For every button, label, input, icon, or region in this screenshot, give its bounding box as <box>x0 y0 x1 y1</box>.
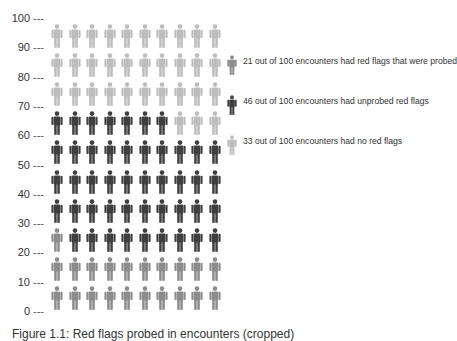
y-tick-value: 100 <box>12 12 30 24</box>
y-tick-label: 10--- <box>0 276 44 288</box>
person-icon <box>69 24 81 48</box>
person-icon <box>86 140 98 164</box>
person-icon <box>156 53 168 77</box>
person-icon <box>121 24 133 48</box>
person-icon <box>86 53 98 77</box>
y-tick-value: 50 <box>18 159 30 171</box>
person-icon <box>174 286 186 310</box>
figure-caption: Figure 1.1: Red flags probed in encounte… <box>12 327 294 341</box>
person-icon <box>174 257 186 281</box>
y-tick-label: 80--- <box>0 71 44 83</box>
person-icon <box>139 82 151 106</box>
person-icon <box>174 199 186 223</box>
person-icon <box>139 199 151 223</box>
person-icon <box>174 228 186 252</box>
person-icon <box>139 228 151 252</box>
person-icon <box>156 257 168 281</box>
person-icon <box>51 199 63 223</box>
y-tick-dash: --- <box>33 41 44 53</box>
y-tick-dash: --- <box>33 188 44 200</box>
person-icon <box>209 199 221 223</box>
y-tick-value: 40 <box>18 188 30 200</box>
y-tick-value: 10 <box>18 276 30 288</box>
person-icon <box>174 53 186 77</box>
person-icon <box>174 140 186 164</box>
person-icon <box>174 111 186 135</box>
person-icon <box>139 257 151 281</box>
person-icon <box>139 111 151 135</box>
person-icon <box>86 199 98 223</box>
person-icon <box>69 170 81 194</box>
person-icon <box>51 170 63 194</box>
person-icon <box>174 24 186 48</box>
person-icon <box>209 257 221 281</box>
person-icon <box>104 140 116 164</box>
person-icon <box>121 257 133 281</box>
y-tick-dash: --- <box>33 71 44 83</box>
person-icon <box>51 140 63 164</box>
person-icon <box>86 170 98 194</box>
person-icon <box>51 24 63 48</box>
y-tick-value: 60 <box>18 129 30 141</box>
person-icon <box>139 53 151 77</box>
person-icon <box>209 111 221 135</box>
person-icon <box>191 199 203 223</box>
person-icon <box>191 140 203 164</box>
y-tick-label: 40--- <box>0 188 44 200</box>
person-icon <box>209 24 221 48</box>
person-icon <box>191 257 203 281</box>
person-icon <box>69 286 81 310</box>
person-icon <box>139 24 151 48</box>
person-icon <box>69 53 81 77</box>
person-icon <box>209 140 221 164</box>
person-icon <box>156 286 168 310</box>
person-icon <box>121 170 133 194</box>
y-tick-dash: --- <box>33 217 44 229</box>
y-tick-value: 70 <box>18 100 30 112</box>
legend-label: 33 out of 100 encounters had no red flag… <box>243 136 402 146</box>
person-icon <box>139 140 151 164</box>
person-icon <box>104 170 116 194</box>
person-icon <box>191 111 203 135</box>
person-icon <box>191 286 203 310</box>
y-tick-label: 0--- <box>0 305 44 317</box>
person-icon <box>104 82 116 106</box>
person-icon <box>51 82 63 106</box>
y-tick-label: 30--- <box>0 217 44 229</box>
person-icon <box>86 82 98 106</box>
person-icon <box>69 257 81 281</box>
person-icon <box>121 140 133 164</box>
person-icon <box>227 54 237 76</box>
y-tick-value: 20 <box>18 246 30 258</box>
person-icon <box>139 170 151 194</box>
person-icon <box>104 199 116 223</box>
person-icon <box>191 170 203 194</box>
person-icon <box>191 82 203 106</box>
y-tick-dash: --- <box>33 129 44 141</box>
person-icon <box>209 228 221 252</box>
y-tick-value: 90 <box>18 41 30 53</box>
y-tick-label: 60--- <box>0 129 44 141</box>
legend-item-none: 33 out of 100 encounters had no red flag… <box>225 134 451 164</box>
person-icon <box>69 82 81 106</box>
person-icon <box>209 286 221 310</box>
person-icon <box>209 170 221 194</box>
person-icon <box>69 199 81 223</box>
person-icon <box>69 228 81 252</box>
person-icon <box>139 286 151 310</box>
person-icon <box>86 228 98 252</box>
person-icon <box>156 140 168 164</box>
y-tick-label: 20--- <box>0 246 44 258</box>
person-icon <box>121 199 133 223</box>
person-icon <box>86 257 98 281</box>
y-tick-value: 80 <box>18 71 30 83</box>
pictogram-grid <box>51 24 216 314</box>
person-icon <box>156 228 168 252</box>
person-icon <box>51 111 63 135</box>
legend-item-probed: 21 out of 100 encounters had red flags t… <box>225 54 451 84</box>
legend-item-unprobed: 46 out of 100 encounters had unprobed re… <box>225 94 451 124</box>
y-tick-label: 70--- <box>0 100 44 112</box>
person-icon <box>51 53 63 77</box>
person-icon <box>156 199 168 223</box>
person-icon <box>191 53 203 77</box>
